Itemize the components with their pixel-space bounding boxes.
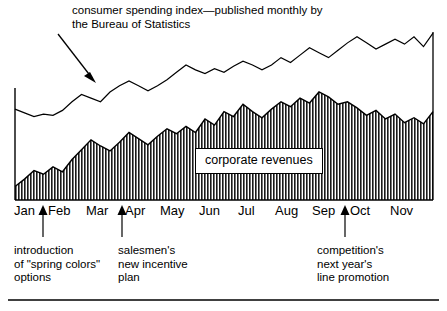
month-label-feb: Feb	[48, 203, 70, 218]
month-label-nov: Nov	[390, 203, 413, 218]
callout-line-promotion: competition's next year's line promotion	[317, 244, 389, 285]
corporate-revenues-label: corporate revenues	[195, 148, 323, 174]
month-label-oct: Oct	[350, 203, 370, 218]
month-label-jan: Jan	[14, 203, 35, 218]
top-annotation-text: consumer spending index—published monthl…	[72, 4, 323, 31]
month-label-mar: Mar	[86, 203, 108, 218]
callout-incentive-plan: salesmen's new incentive plan	[118, 244, 188, 285]
month-label-may: May	[160, 203, 185, 218]
month-label-jul: Jul	[238, 203, 255, 218]
consumer-spending-index-line	[15, 33, 433, 116]
month-label-sep: Sep	[312, 203, 335, 218]
corporate-revenues-area	[15, 92, 433, 200]
figure-canvas: consumer spending index—published monthl…	[0, 0, 447, 311]
month-label-jun: Jun	[199, 203, 220, 218]
month-label-apr: Apr	[125, 203, 145, 218]
month-label-aug: Aug	[275, 203, 298, 218]
callout-spring-colors: introduction of "spring colors" options	[14, 244, 100, 285]
